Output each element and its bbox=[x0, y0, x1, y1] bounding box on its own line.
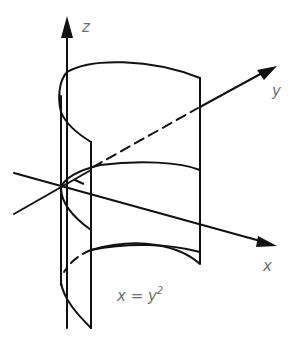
surface-bottom-right-curve bbox=[91, 243, 200, 264]
y-axis-line-hidden bbox=[93, 108, 198, 167]
surface-front-top-parabola bbox=[59, 72, 91, 142]
surface-equation-text: x = y bbox=[117, 287, 157, 305]
y-axis-arrowhead bbox=[257, 66, 277, 80]
y-axis-label: y bbox=[272, 84, 281, 99]
y-axis-line-upper bbox=[200, 72, 264, 107]
x-axis-arrowhead bbox=[256, 236, 277, 247]
z-axis-arrowhead bbox=[61, 16, 73, 38]
x-axis-line bbox=[14, 173, 264, 242]
hidden-lower-parabola bbox=[64, 250, 91, 272]
surface-top-edge bbox=[67, 62, 200, 78]
x-axis-label: x bbox=[263, 259, 272, 274]
hidden-middle-segment bbox=[75, 180, 88, 186]
surface-bottom-edge bbox=[61, 283, 91, 328]
surface-equation-label: x = y2 bbox=[117, 286, 163, 304]
surface-middle-parabola bbox=[61, 188, 91, 230]
z-axis-label: z bbox=[82, 20, 90, 35]
surface-equation-exponent: 2 bbox=[157, 285, 163, 296]
